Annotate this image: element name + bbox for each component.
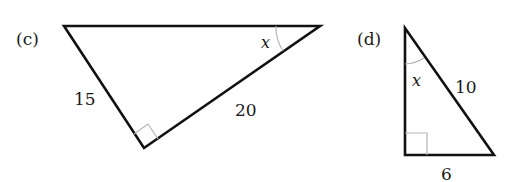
side-label-d-bottom: 6: [441, 164, 452, 182]
figure-c: (c) x 15 20: [16, 26, 320, 148]
angle-arc-c: [276, 26, 283, 51]
figure-d-label: (d): [357, 29, 381, 49]
angle-label-c: x: [261, 33, 270, 52]
figure-d: (d) x 10 6: [357, 28, 494, 182]
right-angle-marker-d: [405, 133, 427, 155]
angle-label-d: x: [412, 71, 421, 90]
triangle-c: [64, 26, 320, 148]
side-label-c-left: 15: [74, 89, 96, 109]
diagram-canvas: (c) x 15 20 (d) x 10 6: [0, 0, 515, 182]
angle-arc-d: [405, 58, 424, 64]
side-label-c-right: 20: [235, 100, 257, 120]
triangle-d: [405, 28, 494, 155]
figure-c-label: (c): [16, 29, 39, 49]
side-label-d-hypotenuse: 10: [455, 77, 477, 97]
